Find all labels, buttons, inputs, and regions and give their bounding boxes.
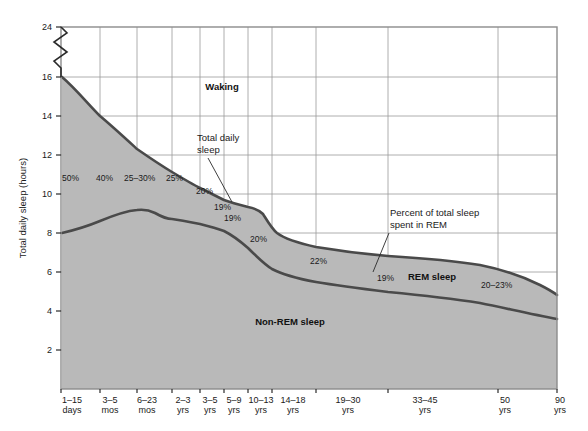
pct-annotation-2: 25–30% bbox=[124, 173, 156, 183]
chart-canvas: 24 16 14 12 10 8 6 4 2 Total daily sleep… bbox=[0, 0, 588, 431]
pct-annotation-1: 40% bbox=[96, 173, 113, 183]
total-daily-sleep-callout-line2: sleep bbox=[197, 144, 220, 155]
rem-percent-callout-line1: Percent of total sleep bbox=[390, 207, 479, 218]
x-tick-label-5-line1: 5–9 bbox=[226, 395, 241, 405]
pct-annotation-10: 20–23% bbox=[481, 280, 513, 290]
x-tick-labels: 1–15 days 3–5 mos 6–23 mos 2–3 yrs 3–5 y… bbox=[62, 395, 567, 415]
x-tick-label-7-line2: yrs bbox=[287, 405, 299, 415]
x-tick-label-11-line2: yrs bbox=[554, 405, 566, 415]
y-tick-label-6: 6 bbox=[47, 267, 52, 277]
x-tick-label-10-line1: 50 bbox=[500, 395, 510, 405]
y-tick-label-12: 12 bbox=[42, 150, 52, 160]
pct-annotation-6: 19% bbox=[224, 213, 241, 223]
x-tick-label-3-line1: 2–3 bbox=[175, 395, 190, 405]
sleep-chart: 24 16 14 12 10 8 6 4 2 Total daily sleep… bbox=[0, 0, 588, 431]
x-tick-label-11-line1: 90 bbox=[555, 395, 565, 405]
region-label-non-rem-sleep: Non-REM sleep bbox=[255, 316, 325, 327]
y-tick-label-14: 14 bbox=[42, 111, 52, 121]
y-tick-label-8: 8 bbox=[47, 228, 52, 238]
rem-percent-callout-line2: spent in REM bbox=[390, 219, 447, 230]
x-tick-label-9-line1: 33–45 bbox=[412, 395, 437, 405]
x-tick-label-7-line1: 14–18 bbox=[280, 395, 305, 405]
y-tick-label-4: 4 bbox=[47, 306, 52, 316]
x-tick-label-2-line1: 6–23 bbox=[137, 395, 157, 405]
x-tick-label-1-line2: mos bbox=[101, 405, 119, 415]
pct-annotation-0: 50% bbox=[62, 173, 79, 183]
y-tick-label-10: 10 bbox=[42, 189, 52, 199]
x-tick-label-2-line2: mos bbox=[138, 405, 156, 415]
x-tick-label-6-line2: yrs bbox=[255, 405, 267, 415]
y-tick-label-24: 24 bbox=[42, 22, 52, 32]
pct-annotation-8: 22% bbox=[310, 256, 327, 266]
x-tick-label-4-line2: yrs bbox=[204, 405, 216, 415]
x-tick-label-3-line2: yrs bbox=[177, 405, 189, 415]
y-axis-title: Total daily sleep (hours) bbox=[17, 158, 28, 258]
x-tick-label-1-line1: 3–5 bbox=[102, 395, 117, 405]
region-label-waking: Waking bbox=[205, 81, 239, 92]
x-tick-label-0-line2: days bbox=[62, 405, 82, 415]
x-tick-label-6-line1: 10–13 bbox=[248, 395, 273, 405]
x-tick-label-9-line2: yrs bbox=[419, 405, 431, 415]
x-tick-label-10-line2: yrs bbox=[499, 405, 511, 415]
y-tick-label-16: 16 bbox=[42, 72, 52, 82]
x-tick-label-4-line1: 3–5 bbox=[202, 395, 217, 405]
y-tick-label-2: 2 bbox=[47, 345, 52, 355]
pct-annotation-7: 20% bbox=[250, 234, 267, 244]
region-label-rem-sleep: REM sleep bbox=[408, 271, 456, 282]
x-tick-label-8-line2: yrs bbox=[342, 405, 354, 415]
x-tick-label-5-line2: yrs bbox=[228, 405, 240, 415]
pct-annotation-3: 25% bbox=[166, 173, 183, 183]
pct-annotation-9: 19% bbox=[377, 273, 394, 283]
total-daily-sleep-callout-line1: Total daily bbox=[197, 132, 239, 143]
pct-annotation-4: 20% bbox=[196, 186, 213, 196]
pct-annotation-5: 19% bbox=[214, 202, 231, 212]
x-tick-label-8-line1: 19–30 bbox=[335, 395, 360, 405]
x-tick-label-0-line1: 1–15 bbox=[62, 395, 82, 405]
